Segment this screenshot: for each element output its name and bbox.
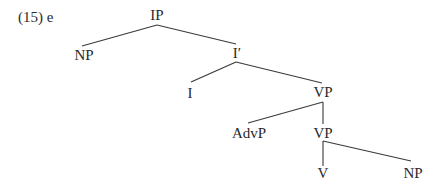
- edge-vp-advp: [248, 102, 323, 123]
- node-ip: IP: [150, 8, 163, 23]
- edge-ip-ibar: [157, 25, 236, 44]
- example-number: (15) e: [18, 10, 53, 25]
- tree-edges: [0, 0, 439, 188]
- node-advp: AdvP: [232, 126, 266, 141]
- node-np-object: NP: [403, 166, 422, 181]
- edge-ip-np: [82, 25, 157, 46]
- node-np-subject: NP: [74, 48, 93, 63]
- edge-vp2-np: [323, 141, 411, 161]
- edge-ibar-i: [191, 62, 236, 82]
- node-vp-lower: VP: [313, 126, 332, 141]
- edge-ibar-vp: [236, 62, 322, 83]
- node-i-bar: I′: [233, 46, 241, 61]
- node-vp-upper: VP: [313, 85, 332, 100]
- node-v: V: [318, 166, 329, 181]
- node-i: I: [188, 86, 193, 101]
